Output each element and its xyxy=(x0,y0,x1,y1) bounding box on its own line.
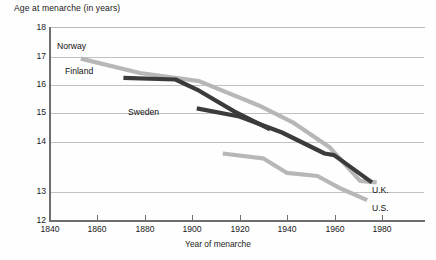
chart-figure: Age at menarche (in years) 18 17 16 15 1… xyxy=(0,0,436,260)
ytick-label-14: 14 xyxy=(20,136,46,146)
xtick-label-1960: 1960 xyxy=(315,224,355,234)
series-label-us: U.S. xyxy=(372,203,389,213)
ytick-label-16: 16 xyxy=(20,79,46,89)
chart-x-axis-title: Year of menarche xyxy=(0,239,436,249)
series-label-finland: Finland xyxy=(65,66,93,76)
xtick-1960 xyxy=(335,215,336,221)
xtick-label-1880: 1880 xyxy=(125,224,165,234)
xtick-1900 xyxy=(192,215,193,221)
xtick-1860 xyxy=(97,215,98,221)
xtick-label-1980: 1980 xyxy=(362,224,402,234)
series-label-norway: Norway xyxy=(57,41,86,51)
ytick-label-15: 15 xyxy=(20,107,46,117)
xtick-label-1920: 1920 xyxy=(220,224,260,234)
xtick-1920 xyxy=(240,215,241,221)
series-label-uk: U.K. xyxy=(372,185,389,195)
xtick-1840 xyxy=(50,215,51,221)
series-label-sweden: Sweden xyxy=(128,107,159,117)
ytick-label-17: 17 xyxy=(20,51,46,61)
ytick-label-13: 13 xyxy=(20,186,46,196)
series-canvas xyxy=(50,28,424,221)
series-line-us xyxy=(223,154,367,201)
chart-y-axis-title: Age at menarche (in years) xyxy=(14,3,120,13)
xtick-label-1940: 1940 xyxy=(267,224,307,234)
xtick-label-1840: 1840 xyxy=(30,224,70,234)
xtick-1880 xyxy=(145,215,146,221)
x-axis-line xyxy=(49,220,425,222)
xtick-label-1860: 1860 xyxy=(77,224,117,234)
xtick-1940 xyxy=(287,215,288,221)
ytick-label-18: 18 xyxy=(20,22,46,32)
y-axis-line xyxy=(49,27,51,222)
plot-area xyxy=(50,28,424,221)
xtick-1980 xyxy=(382,215,383,221)
xtick-label-1900: 1900 xyxy=(172,224,212,234)
